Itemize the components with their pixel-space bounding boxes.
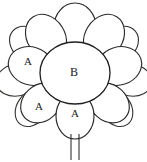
flower-diagram: A A A B [0,0,147,162]
petal-label-left: A [24,55,32,67]
core-label: B [70,65,78,79]
petal-label-bottom: A [71,107,79,119]
flower-drawing-canvas: A A A B [0,0,147,162]
petal-label-lower-left: A [35,100,43,112]
